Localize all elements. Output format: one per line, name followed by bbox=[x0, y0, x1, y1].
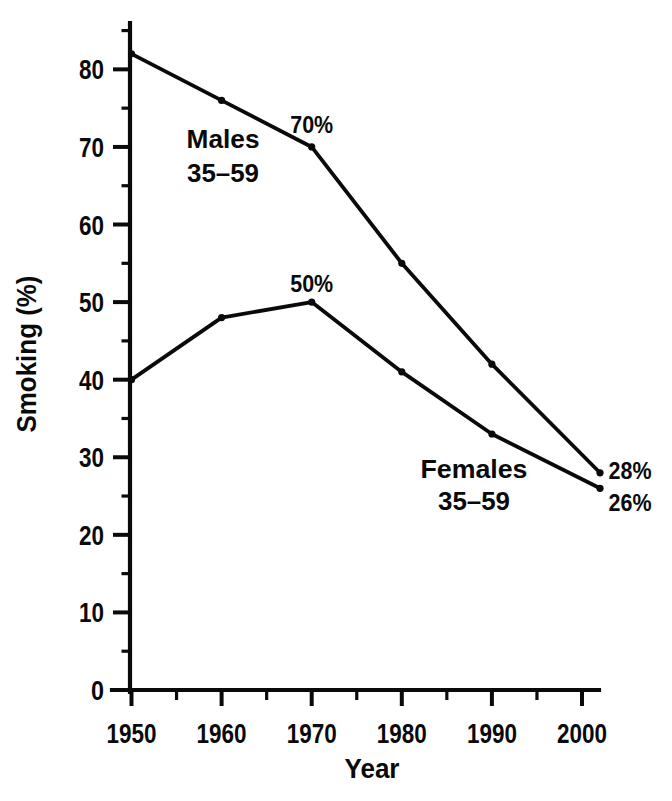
y-axis-tick-label: 50 bbox=[79, 287, 104, 318]
chart-svg: 0102030405060708019501960197019801990200… bbox=[0, 0, 672, 801]
series-label-1-line-0: Females bbox=[421, 454, 528, 484]
series-group bbox=[128, 50, 604, 492]
y-axis-tick-label: 40 bbox=[79, 365, 104, 396]
data-point bbox=[398, 260, 405, 267]
y-axis-tick-label: 80 bbox=[79, 54, 104, 85]
series-label-0-line-0: Males bbox=[187, 124, 260, 154]
y-axis-tick-label: 60 bbox=[79, 210, 104, 241]
data-point bbox=[218, 97, 225, 104]
data-point bbox=[596, 485, 603, 492]
data-point bbox=[128, 376, 135, 383]
axes: 0102030405060708019501960197019801990200… bbox=[79, 23, 607, 749]
x-axis-tick-label: 1950 bbox=[107, 718, 157, 749]
smoking-prevalence-chart: 0102030405060708019501960197019801990200… bbox=[0, 0, 672, 801]
point-label-males-1970: 70% bbox=[290, 111, 333, 138]
point-label-females-1970: 50% bbox=[290, 270, 333, 297]
x-axis-tick-label: 1970 bbox=[287, 718, 337, 749]
data-point bbox=[596, 469, 603, 476]
point-label-females-2002: 26% bbox=[609, 489, 652, 516]
x-axis-tick-label: 2000 bbox=[557, 718, 607, 749]
data-point bbox=[308, 143, 315, 150]
data-point bbox=[398, 368, 405, 375]
y-axis-tick-label: 70 bbox=[79, 132, 104, 163]
series-label-0-line-1: 35–59 bbox=[187, 158, 259, 188]
data-point bbox=[218, 314, 225, 321]
y-axis-tick-label: 0 bbox=[91, 675, 104, 706]
series-label-1-line-1: 35–59 bbox=[438, 486, 510, 516]
data-point bbox=[488, 361, 495, 368]
series-line-0 bbox=[132, 54, 601, 473]
y-axis-title: Smoking (%) bbox=[11, 276, 42, 433]
y-axis-tick-label: 30 bbox=[79, 442, 104, 473]
y-axis-tick-label: 20 bbox=[79, 520, 104, 551]
x-axis-tick-label: 1980 bbox=[377, 718, 427, 749]
x-axis-tick-label: 1990 bbox=[467, 718, 517, 749]
y-axis-tick-label: 10 bbox=[79, 597, 104, 628]
data-point bbox=[128, 50, 135, 57]
data-point bbox=[488, 430, 495, 437]
point-label-males-2002: 28% bbox=[609, 457, 652, 484]
x-axis-tick-label: 1960 bbox=[197, 718, 247, 749]
x-axis-title: Year bbox=[345, 753, 400, 784]
data-point bbox=[308, 299, 315, 306]
series-line-1 bbox=[132, 302, 601, 488]
